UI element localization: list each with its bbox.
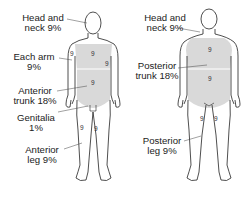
posterior-upper-trunk-number: 9 — [208, 46, 212, 53]
posterior-left-leg-number: 9 — [214, 115, 218, 122]
label-line: neck 9% — [140, 23, 190, 33]
posterior-right-leg-number: 9 — [200, 115, 204, 122]
label-each-arm: Each arm 9% — [12, 52, 56, 72]
posterior-lower-trunk-number: 9 — [208, 75, 212, 82]
label-line: 1% — [14, 123, 58, 133]
rule-of-nines-diagram: 9 9 9 9 9 9 9 9 9 9 — [0, 0, 242, 197]
anterior-figure — [66, 12, 120, 181]
label-anterior-head-neck: Head and neck 9% — [18, 13, 68, 33]
label-line: leg 9% — [20, 155, 64, 165]
label-line: 9% — [12, 62, 56, 72]
anterior-lower-trunk-number: 9 — [91, 79, 95, 86]
anterior-left-leg-number: 9 — [94, 125, 98, 132]
label-line: trunk 18% — [12, 96, 58, 106]
label-anterior-trunk: Anterior trunk 18% — [12, 86, 58, 106]
label-anterior-leg: Anterior leg 9% — [20, 145, 64, 165]
posterior-figure — [178, 9, 240, 181]
label-line: trunk 18% — [134, 71, 180, 81]
label-line: neck 9% — [18, 23, 68, 33]
anterior-upper-trunk-number: 9 — [91, 50, 95, 57]
label-line: leg 9% — [140, 146, 184, 156]
anterior-right-leg-number: 9 — [80, 124, 84, 131]
label-posterior-head-neck: Head and neck 9% — [140, 13, 190, 33]
anterior-left-arm-number: 9 — [105, 60, 109, 67]
label-posterior-trunk: Posterior trunk 18% — [134, 61, 180, 81]
label-genitalia: Genitalia 1% — [14, 113, 58, 133]
anterior-right-arm-number: 9 — [70, 50, 74, 57]
label-posterior-leg: Posterior leg 9% — [140, 136, 184, 156]
